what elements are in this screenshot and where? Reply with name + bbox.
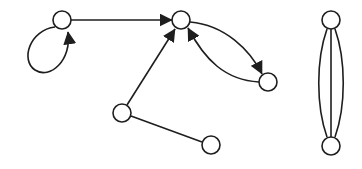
node-b[interactable] bbox=[172, 11, 190, 29]
node-f[interactable] bbox=[322, 11, 340, 29]
graph-diagram bbox=[0, 0, 362, 169]
edge-a-a-self-loop bbox=[28, 27, 69, 73]
edge-d-e bbox=[131, 116, 202, 142]
edge-c-b bbox=[188, 28, 259, 82]
node-e[interactable] bbox=[202, 136, 220, 154]
node-d[interactable] bbox=[113, 104, 131, 122]
edges bbox=[28, 20, 343, 142]
node-c[interactable] bbox=[259, 73, 277, 91]
edge-f-g-left bbox=[319, 29, 327, 137]
nodes bbox=[53, 11, 340, 155]
edge-d-b bbox=[127, 29, 175, 105]
node-a[interactable] bbox=[53, 11, 71, 29]
edge-f-g-right bbox=[335, 29, 343, 137]
node-g[interactable] bbox=[322, 137, 340, 155]
